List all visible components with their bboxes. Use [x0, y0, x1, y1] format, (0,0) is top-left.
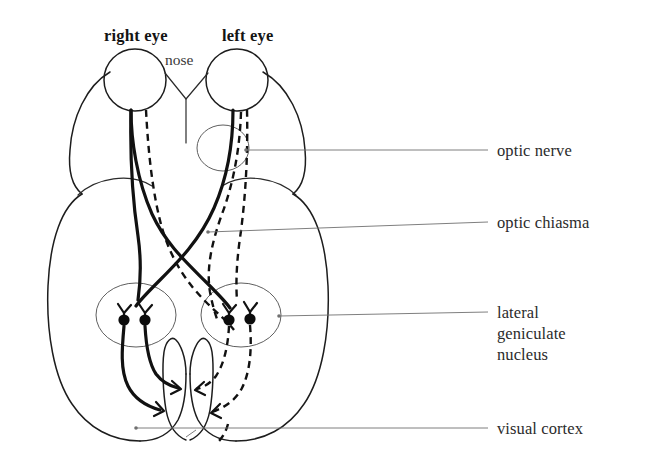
nose-marker: [165, 73, 208, 143]
synapse-fork-1: [118, 304, 131, 313]
label-lgn-line-3: nucleus: [497, 345, 548, 364]
right-lobe-fissure: [222, 178, 296, 195]
label-visual-cortex: visual cortex: [497, 419, 584, 438]
optic-nerve-ring: [197, 125, 249, 171]
leader-visual-cortex-tick: [186, 430, 196, 437]
left-eyeball: [206, 49, 268, 111]
synapse-fork-4: [244, 302, 257, 312]
label-left-eye: left eye: [222, 26, 274, 45]
anatomy-figure: Visual pathway from the eyes to the visu…: [0, 0, 650, 466]
label-optic-chiasma: optic chiasma: [497, 213, 590, 232]
label-lgn-line-1: lateral: [497, 303, 539, 322]
right-eyeball: [104, 49, 166, 111]
synapse-dot-4: [244, 313, 255, 324]
brain-outline: [48, 72, 329, 441]
tract-right-eye-ipsilateral-solid: [131, 110, 141, 300]
leader-endpoint-lgn: [277, 314, 281, 318]
label-lgn-line-2: geniculate: [497, 324, 566, 343]
right-lgn-ring: [96, 283, 176, 347]
leader-endpoint-optic-chiasma: [206, 230, 210, 234]
leader-optic-chiasma: [208, 222, 488, 232]
frontal-lobe-right-edge: [263, 72, 306, 194]
label-nose: nose: [165, 51, 194, 68]
leader-endpoint-visual-cortex: [134, 426, 138, 430]
label-right-eye: right eye: [104, 26, 168, 45]
radiation-dashed-outer: [212, 325, 251, 412]
synapse-dot-3: [223, 314, 234, 325]
radiation-solid-outer: [145, 326, 178, 388]
label-optic-nerve: optic nerve: [497, 141, 572, 160]
synapse-dot-1: [118, 314, 129, 325]
frontal-lobe-left-edge: [70, 72, 111, 194]
visual-pathway-diagram: Visual pathway from the eyes to the visu…: [0, 0, 650, 466]
synapse-dot-2: [139, 314, 150, 325]
left-lgn-ring: [201, 283, 281, 347]
nose-bridge-v: [165, 73, 208, 99]
leader-endpoint-optic-nerve: [244, 148, 248, 152]
synapse-fork-2: [139, 304, 152, 313]
callout-leaders: [134, 148, 488, 437]
leader-lateral-geniculate-nucleus: [279, 312, 488, 316]
